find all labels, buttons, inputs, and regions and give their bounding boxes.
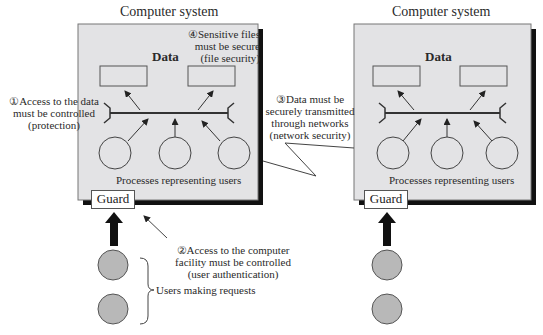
brace-icon	[140, 258, 154, 324]
data-label: Data	[152, 50, 179, 63]
marker-4-icon: ④	[188, 28, 198, 40]
marker-1-icon: ①	[9, 95, 19, 107]
data-label: Data	[425, 50, 452, 63]
annotation-arrow	[144, 216, 167, 238]
users-label: Users making requests	[156, 284, 256, 296]
thick-arrow-icon	[105, 212, 123, 246]
marker-3-icon: ③	[276, 93, 286, 105]
user-circle	[98, 250, 128, 280]
guard-box: Guard	[91, 190, 135, 209]
marker-2-icon: ②	[177, 244, 187, 256]
user-circle	[372, 250, 402, 280]
network-callout	[263, 143, 354, 176]
user-circle	[372, 294, 402, 324]
thick-arrow-icon	[378, 212, 396, 246]
annotation-user-authentication: ②Access to the computer facility must be…	[168, 244, 298, 280]
processes-label: Processes representing users	[389, 175, 514, 186]
diagram-canvas	[0, 0, 543, 335]
system-title: Computer system	[120, 5, 218, 19]
user-circle	[98, 294, 128, 324]
annotation-network-security: ③Data must be securely transmitted throu…	[262, 93, 358, 141]
processes-label: Processes representing users	[116, 175, 241, 186]
annotation-protection: ①Access to the data must be controlled (…	[2, 95, 106, 131]
system-title: Computer system	[392, 5, 490, 19]
guard-box: Guard	[364, 190, 408, 209]
annotation-file-security: ④Sensitive files must be secure (file se…	[186, 28, 260, 64]
